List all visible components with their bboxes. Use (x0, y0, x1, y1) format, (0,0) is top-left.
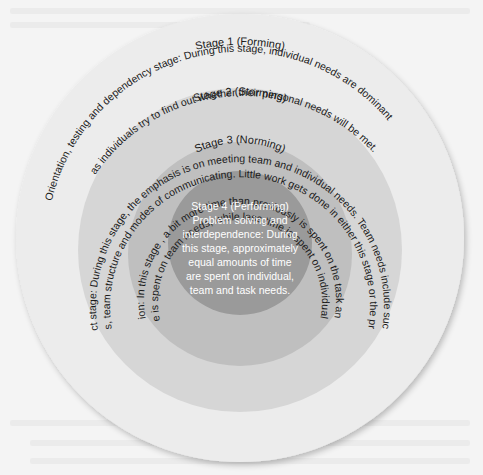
stage-4-line: are spent on individual, (186, 270, 294, 282)
stage-4-line: this stage, approximately (182, 242, 299, 254)
stage-4-line: team and task needs. (190, 284, 290, 296)
stage-4-line: interdependence: During (183, 228, 298, 240)
team-stages-diagram: Stage 1 (Forming) Orientation, testing a… (0, 0, 483, 475)
stage-4-line: equal amounts of time (188, 256, 291, 268)
stage-4-title: Stage 4 (Performing) (191, 200, 288, 212)
stage-4-line: Problem solving and (192, 214, 287, 226)
